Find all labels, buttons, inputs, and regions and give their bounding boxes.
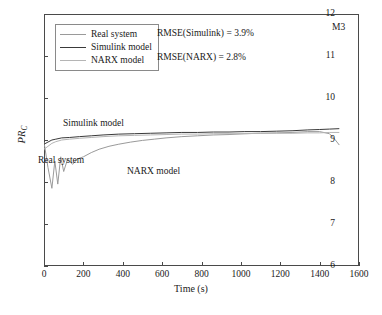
series-line <box>44 132 339 149</box>
y-tick-mark <box>44 182 48 183</box>
x-tick-mark <box>123 262 124 266</box>
chart-container: 6789101112 02004006008001000120014001600… <box>0 0 382 315</box>
annotation-rmse-narx: RMSE(NARX) = 2.8% <box>157 52 246 63</box>
y-axis-label: PRC <box>16 105 29 165</box>
legend-label-narx-model: NARX model <box>91 55 144 66</box>
panel-label: M3 <box>332 22 345 33</box>
x-axis-label: Time (s) <box>0 283 382 294</box>
annotation-rmse-simulink: RMSE(Simulink) = 3.9% <box>157 28 254 39</box>
legend-item-narx-model: NARX model <box>60 54 152 67</box>
y-tick-mark <box>44 224 48 225</box>
y-tick-label: 7 <box>305 218 335 228</box>
y-tick-mark <box>44 266 48 267</box>
y-tick-mark <box>44 140 48 141</box>
x-tick-label: 1400 <box>300 269 340 279</box>
curve-label-simulink: Simulink model <box>63 118 124 129</box>
y-tick-label: 11 <box>305 50 335 60</box>
legend-item-real-system: Real system <box>60 28 152 41</box>
curve-label-real-system: Real system <box>38 155 84 166</box>
legend-swatch-real-system <box>60 34 86 35</box>
legend-label-real-system: Real system <box>91 29 137 40</box>
legend-swatch-narx-model <box>60 60 86 61</box>
x-tick-label: 1600 <box>339 269 379 279</box>
x-tick-mark <box>241 262 242 266</box>
y-tick-mark <box>44 14 48 15</box>
y-tick-label: 9 <box>305 134 335 144</box>
x-tick-mark <box>280 262 281 266</box>
x-tick-mark <box>162 262 163 266</box>
curve-label-narx: NARX model <box>127 166 180 177</box>
x-tick-label: 1000 <box>221 269 261 279</box>
x-tick-label: 800 <box>182 269 222 279</box>
y-tick-label: 8 <box>305 176 335 186</box>
x-tick-mark <box>202 262 203 266</box>
x-tick-mark <box>320 262 321 266</box>
legend-swatch-simulink-model <box>60 47 86 48</box>
series-line <box>44 132 339 189</box>
x-tick-label: 600 <box>142 269 182 279</box>
x-tick-label: 200 <box>63 269 103 279</box>
chart-legend: Real system Simulink model NARX model <box>55 24 159 71</box>
x-tick-mark <box>83 262 84 266</box>
x-tick-mark <box>359 262 360 266</box>
x-tick-label: 0 <box>24 269 64 279</box>
x-tick-mark <box>44 262 45 266</box>
y-tick-label: 12 <box>305 8 335 18</box>
legend-label-simulink-model: Simulink model <box>91 42 152 53</box>
x-tick-label: 400 <box>103 269 143 279</box>
y-tick-mark <box>44 56 48 57</box>
x-tick-label: 1200 <box>260 269 300 279</box>
y-tick-label: 10 <box>305 92 335 102</box>
legend-item-simulink-model: Simulink model <box>60 41 152 54</box>
y-tick-mark <box>44 98 48 99</box>
